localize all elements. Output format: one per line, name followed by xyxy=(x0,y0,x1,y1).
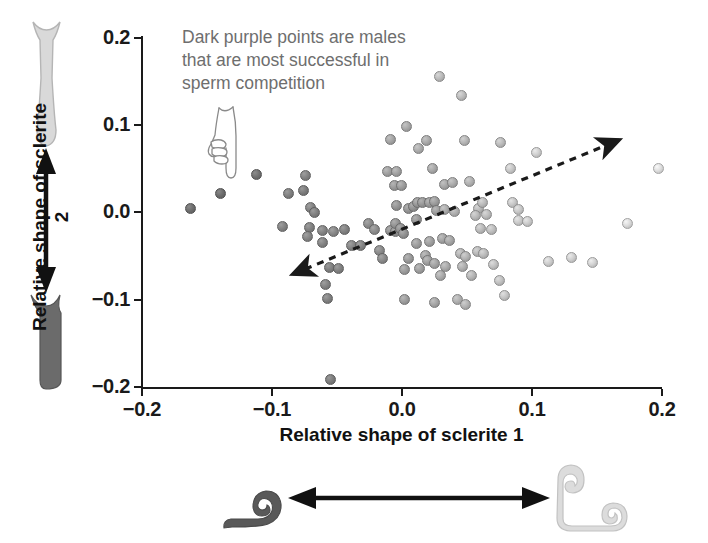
scatter-point xyxy=(300,170,311,181)
pointing-hand-icon xyxy=(203,106,253,186)
annotation-text: Dark purple points are males that are mo… xyxy=(182,26,512,95)
y-tick-mark xyxy=(134,299,141,301)
scatter-point xyxy=(447,177,458,188)
scatter-point xyxy=(411,214,422,225)
scatter-point xyxy=(466,270,477,281)
sclerite-1-light-morph xyxy=(554,462,628,534)
x-tick-mark xyxy=(531,389,533,396)
scatter-point xyxy=(429,258,440,269)
scatter-point xyxy=(449,206,460,217)
scatter-point xyxy=(587,257,598,268)
scatter-point xyxy=(411,238,422,249)
scatter-point xyxy=(499,290,510,301)
scatter-point xyxy=(459,135,470,146)
scatter-point xyxy=(414,263,425,274)
scatter-point xyxy=(566,252,577,263)
x-tick-mark xyxy=(271,389,273,396)
y-tick-mark xyxy=(134,211,141,213)
x-tick-label: −0.2 xyxy=(107,398,177,421)
scatter-point xyxy=(391,200,402,211)
scatter-point xyxy=(399,294,410,305)
x-tick-label: −0.1 xyxy=(237,398,307,421)
scatter-point xyxy=(470,210,481,221)
scatter-point xyxy=(328,226,339,237)
scatter-point xyxy=(494,275,505,286)
scatter-point xyxy=(320,279,331,290)
y-tick-mark xyxy=(134,124,141,126)
scatter-point xyxy=(317,237,328,248)
x-tick-mark xyxy=(661,389,663,396)
scatter-point xyxy=(622,218,633,229)
scatter-point xyxy=(401,121,412,132)
annotation-line-3: sperm competition xyxy=(182,72,512,95)
scatter-point xyxy=(543,256,554,267)
scatter-point xyxy=(486,224,497,235)
scatter-point xyxy=(391,166,402,177)
scatter-point xyxy=(522,216,533,227)
scatter-point xyxy=(531,147,542,158)
scatter-point xyxy=(322,293,333,304)
scatter-point xyxy=(398,228,409,239)
annotation-line-1: Dark purple points are males xyxy=(182,26,512,49)
y-tick-label: −0.2 xyxy=(62,375,130,398)
y-axis-label: Relative shape of sclerite 2 xyxy=(29,102,73,332)
x-tick-mark xyxy=(401,389,403,396)
scatter-point xyxy=(302,231,313,242)
scatter-point xyxy=(421,135,432,146)
scatter-point xyxy=(460,251,471,262)
x-tick-label: 0.0 xyxy=(367,398,437,421)
x-tick-mark xyxy=(141,389,143,396)
scatter-point xyxy=(396,180,407,191)
scatter-point xyxy=(385,134,396,145)
scatter-point xyxy=(513,204,524,215)
scatter-point xyxy=(477,197,488,208)
sclerite-1-dark-morph xyxy=(222,466,286,532)
scatter-point xyxy=(277,221,288,232)
y-tick-mark xyxy=(134,386,141,388)
scatter-point xyxy=(427,163,438,174)
scatter-point xyxy=(464,176,475,187)
scatter-point xyxy=(444,235,455,246)
scatter-point xyxy=(309,207,320,218)
scatter-point xyxy=(369,224,380,235)
scatter-point xyxy=(505,163,516,174)
scatter-point xyxy=(185,203,196,214)
scatter-point xyxy=(298,185,309,196)
y-tick-label: 0.2 xyxy=(62,26,130,49)
y-tick-mark xyxy=(134,37,141,39)
scatter-point xyxy=(325,374,336,385)
scatter-point xyxy=(488,259,499,270)
scatter-point xyxy=(283,188,294,199)
scatter-point xyxy=(429,297,440,308)
scatter-point xyxy=(403,253,414,264)
annotation-line-2: that are most successful in xyxy=(182,49,512,72)
scatter-point xyxy=(317,225,328,236)
scatter-point xyxy=(424,236,435,247)
scatter-point xyxy=(399,264,410,275)
x-tick-label: 0.1 xyxy=(497,398,567,421)
scatter-point xyxy=(435,270,446,281)
scatter-point xyxy=(333,263,344,274)
scatter-point xyxy=(478,248,489,259)
scatter-point xyxy=(439,204,450,215)
scatter-point xyxy=(481,209,492,220)
scatter-point xyxy=(653,163,664,174)
scatter-point xyxy=(460,299,471,310)
scatter-point xyxy=(355,240,366,251)
scatter-point xyxy=(339,224,350,235)
scatter-point xyxy=(457,261,468,272)
scatter-point xyxy=(475,223,486,234)
x-axis-label: Relative shape of sclerite 1 xyxy=(141,424,662,446)
scatter-point xyxy=(377,253,388,264)
scatter-point xyxy=(215,188,226,199)
x-tick-label: 0.2 xyxy=(627,398,697,421)
scatter-point xyxy=(495,137,506,148)
double-headed-horizontal-arrow xyxy=(288,478,550,518)
scatter-figure: 0.2 0.1 0.0 −0.1 −0.2 −0.2 −0.1 0.0 0.1 … xyxy=(0,0,708,543)
